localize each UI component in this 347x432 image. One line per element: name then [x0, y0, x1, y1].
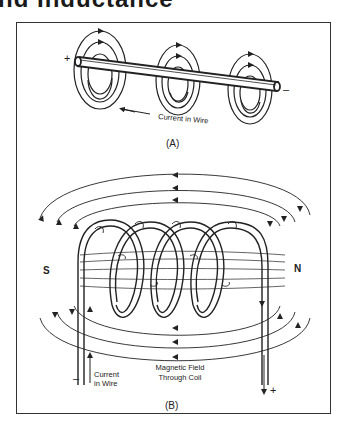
field-label-line1: Magnetic Field	[156, 363, 205, 372]
field-label-line2: Through Coil	[159, 373, 202, 382]
caption-b: (B)	[165, 400, 178, 411]
inductance-diagram: + – Current in Wire (A)	[0, 0, 347, 432]
wire	[75, 57, 280, 91]
south-pole-label: S	[43, 265, 50, 276]
current-label-b-line2: in Wire	[94, 379, 117, 388]
north-pole-label: N	[294, 263, 301, 274]
field-lines-lower	[40, 306, 310, 361]
plus-label-b: +	[270, 384, 276, 396]
minus-label-a: –	[283, 83, 290, 95]
panel-b-coil	[38, 172, 310, 392]
panel-a-straight-wire	[74, 28, 280, 124]
caption-a: (A)	[166, 138, 179, 149]
minus-label-b: –	[73, 372, 80, 384]
current-label-a: Current in Wire	[158, 112, 209, 125]
plus-label-a: +	[64, 52, 70, 64]
coil-turns	[78, 220, 268, 385]
current-label-b-line1: Current	[94, 370, 120, 379]
